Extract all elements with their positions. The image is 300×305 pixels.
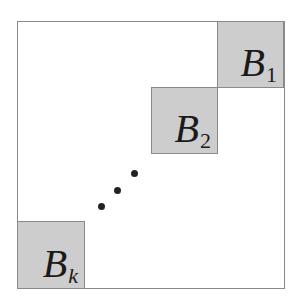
ellipsis-dot-3-icon: [98, 203, 105, 210]
block-b2-label: B2: [175, 109, 211, 149]
block-b1: B1: [217, 21, 284, 88]
block-bk: Bk: [17, 221, 85, 289]
block-b1-label: B1: [241, 43, 277, 83]
ellipsis-dot-2-icon: [114, 187, 121, 194]
block-bk-label: Bk: [43, 244, 78, 284]
ellipsis-dot-1-icon: [131, 170, 138, 177]
block-b2: B2: [151, 87, 218, 154]
